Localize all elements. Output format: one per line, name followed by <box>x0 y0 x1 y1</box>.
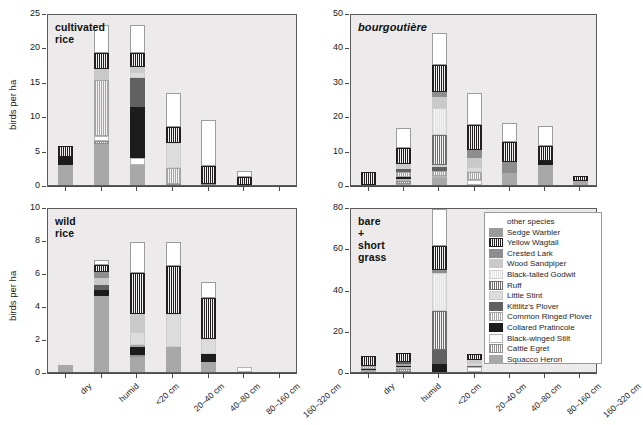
y-tick-mark <box>345 152 349 153</box>
bar-segment-yellowwag <box>94 265 109 272</box>
bar-segment-other <box>166 93 181 127</box>
bar-segment-pratincole <box>58 157 73 165</box>
bar-segment-ringplover <box>94 80 109 136</box>
bar-segment-yellowwag <box>467 125 482 150</box>
x-tick-mark <box>509 374 510 378</box>
bar-cultivated-rice-3[interactable] <box>166 14 181 185</box>
legend-item-crestedlark[interactable]: Crested Lark <box>489 248 599 259</box>
y-tick-label: 0 <box>15 367 40 377</box>
legend-item-sedge[interactable]: Sedge Warbler <box>489 227 599 238</box>
bar-segment-woodsand <box>396 164 411 167</box>
plot-area-wild-rice <box>47 208 297 373</box>
x-tick-label: 160–320 cm <box>301 381 342 420</box>
bar-bourgoutiere-5[interactable] <box>538 14 553 185</box>
bar-cultivated-rice-6[interactable] <box>273 14 288 185</box>
bar-segment-yellowwag <box>573 176 588 181</box>
legend-item-pratincole[interactable]: Collared Pratincole <box>489 322 599 333</box>
x-tick-mark <box>279 187 280 191</box>
x-tick-mark <box>368 187 369 191</box>
bar-segment-yellowwag <box>361 172 376 185</box>
legend-swatch-godwit <box>489 270 503 279</box>
legend-label-ruff: Ruff <box>507 280 522 291</box>
legend-item-cattleegret[interactable]: Cattle Egret <box>489 343 599 354</box>
legend-item-littlestint[interactable]: Little Stint <box>489 290 599 301</box>
y-tick-label: 15 <box>15 77 40 87</box>
legend-item-kittlitz[interactable]: Kittlitz's Plover <box>489 301 599 312</box>
legend-item-ruff[interactable]: Ruff <box>489 280 599 291</box>
y-tick-mark <box>345 373 349 374</box>
bar-bourgoutiere-0[interactable] <box>361 14 376 185</box>
x-tick-label: 40–80 cm <box>227 381 261 413</box>
bar-wild-rice-1[interactable] <box>94 208 109 372</box>
y-tick-label: 20 <box>318 111 343 121</box>
legend-swatch-squacco <box>489 355 503 364</box>
bar-bourgoutiere-6[interactable] <box>573 14 588 185</box>
bar-segment-other <box>130 25 145 53</box>
bar-segment-ringplover <box>361 366 376 369</box>
y-tick-label: 20 <box>15 42 40 52</box>
legend-swatch-pratincole <box>489 323 503 332</box>
legend-item-woodsand[interactable]: Wood Sandpiper <box>489 258 599 269</box>
bar-bare-short-grass-2[interactable] <box>432 208 447 372</box>
bar-segment-other <box>166 242 181 266</box>
bar-bourgoutiere-3[interactable] <box>467 14 482 185</box>
bar-segment-woodsand <box>94 69 109 80</box>
bar-wild-rice-2[interactable] <box>130 208 145 372</box>
x-tick-mark <box>403 187 404 191</box>
bar-segment-yellowwag <box>201 166 216 184</box>
bar-bare-short-grass-1[interactable] <box>396 208 411 372</box>
bar-segment-yellowwag <box>130 273 145 314</box>
bar-bourgoutiere-1[interactable] <box>396 14 411 185</box>
bar-segment-pratincole <box>94 290 109 296</box>
bar-segment-stilt <box>467 180 482 185</box>
legend-item-stilt[interactable]: Black-winged Stilt <box>489 333 599 344</box>
legend-label-crestedlark: Crested Lark <box>507 248 553 259</box>
bar-wild-rice-3[interactable] <box>166 208 181 372</box>
y-tick-mark <box>42 186 46 187</box>
bar-segment-squacco <box>58 165 73 185</box>
legend-label-ringplover: Common Ringed Plover <box>507 311 592 322</box>
bar-segment-squacco <box>166 347 181 372</box>
bar-cultivated-rice-4[interactable] <box>201 14 216 185</box>
legend-item-ringplover[interactable]: Common Ringed Plover <box>489 311 599 322</box>
legend-label-sedge: Sedge Warbler <box>507 227 560 238</box>
x-tick-label: dry <box>78 381 93 396</box>
bar-segment-squacco <box>94 144 109 185</box>
bar-segment-ringplover <box>396 172 411 177</box>
bar-segment-cattleegret <box>396 369 411 372</box>
bar-segment-other <box>432 209 447 246</box>
legend-label-pratincole: Collared Pratincole <box>507 322 575 333</box>
legend-item-godwit[interactable]: Black-tailed Godwit <box>489 269 599 280</box>
bar-segment-squacco <box>432 178 447 185</box>
bar-segment-godwit <box>432 273 447 311</box>
x-tick-mark <box>544 187 545 191</box>
plot-area-bourgoutiere <box>350 14 597 186</box>
legend-label-godwit: Black-tailed Godwit <box>507 269 575 280</box>
bar-segment-woodsand <box>130 67 145 73</box>
x-tick-mark <box>579 374 580 378</box>
bar-wild-rice-5[interactable] <box>237 208 252 372</box>
bar-wild-rice-6[interactable] <box>273 208 288 372</box>
bar-segment-littlestint <box>166 143 181 168</box>
y-tick-label: 20 <box>318 326 343 336</box>
bar-bare-short-grass-3[interactable] <box>467 208 482 372</box>
bar-segment-other <box>201 282 216 298</box>
bar-cultivated-rice-2[interactable] <box>130 14 145 185</box>
x-tick-mark <box>208 187 209 191</box>
bar-segment-pratincole <box>201 354 216 362</box>
bar-wild-rice-4[interactable] <box>201 208 216 372</box>
x-tick-label: <20 cm <box>154 381 182 407</box>
bar-segment-yellowwag <box>432 65 447 92</box>
y-tick-label: 4 <box>15 301 40 311</box>
x-tick-mark <box>579 187 580 191</box>
legend-item-yellowwag[interactable]: Yellow Wagtail <box>489 237 599 248</box>
y-tick-mark <box>345 48 349 49</box>
legend-item-other[interactable]: other species <box>489 216 599 227</box>
legend-label-stilt: Black-winged Stilt <box>507 333 570 344</box>
bar-bourgoutiere-2[interactable] <box>432 14 447 185</box>
bar-cultivated-rice-5[interactable] <box>237 14 252 185</box>
bar-segment-yellowwag <box>201 298 216 339</box>
legend-item-squacco[interactable]: Squacco Heron <box>489 354 599 365</box>
x-tick-label: 40–80 cm <box>528 381 562 413</box>
bar-bourgoutiere-4[interactable] <box>502 14 517 185</box>
